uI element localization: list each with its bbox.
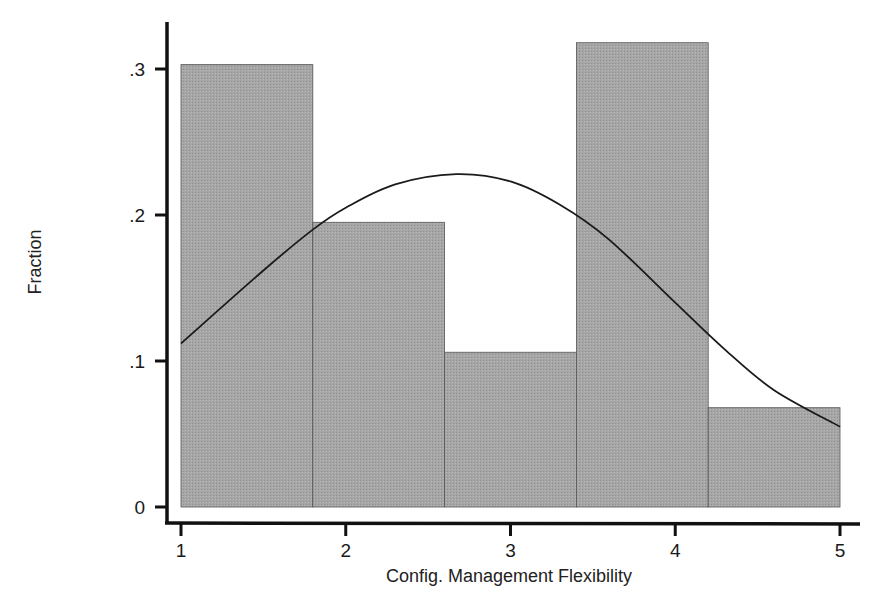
histogram-bars <box>181 43 840 507</box>
y-tick-label: .2 <box>129 205 145 226</box>
y-tick-label: .3 <box>129 59 145 80</box>
histogram-bar-2 <box>313 222 445 507</box>
histogram-bar-4 <box>576 43 708 507</box>
histogram-chart: 0.1.2.3 12345 Config. Management Flexibi… <box>0 0 879 595</box>
y-axis-title: Fraction <box>25 229 45 294</box>
histogram-bar-3 <box>445 352 577 507</box>
histogram-bar-5 <box>708 408 840 507</box>
x-tick-label: 1 <box>176 540 187 561</box>
y-tick-label: .1 <box>129 351 145 372</box>
x-tick-label: 5 <box>835 540 846 561</box>
x-axis-title: Config. Management Flexibility <box>386 566 632 586</box>
x-axis-line <box>165 523 860 524</box>
x-tick-label: 4 <box>670 540 681 561</box>
y-tick-label: 0 <box>134 497 145 518</box>
x-tick-label: 3 <box>505 540 516 561</box>
x-tick-label: 2 <box>340 540 351 561</box>
x-axis-ticks: 12345 <box>176 523 846 561</box>
y-axis-ticks: 0.1.2.3 <box>129 59 167 518</box>
